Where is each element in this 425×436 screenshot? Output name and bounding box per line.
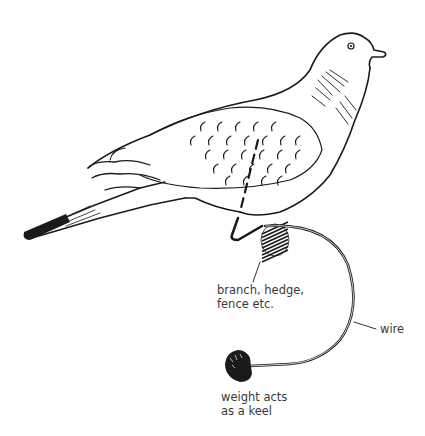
wing-scallop	[191, 136, 196, 145]
wing-scallop	[268, 164, 273, 173]
wing-scallop	[254, 122, 259, 131]
wing-scallop	[281, 136, 286, 145]
wing-scallop	[278, 176, 283, 185]
branch-label-line-2: fence etc.	[217, 297, 304, 311]
wing-scallop	[218, 122, 223, 131]
wing-scallop	[296, 136, 301, 145]
wing-scallop	[245, 136, 250, 145]
wing-scallop	[278, 150, 283, 159]
wing-scallop	[236, 122, 241, 131]
tail-tip	[24, 214, 70, 240]
wing-scallop	[260, 150, 265, 159]
diagram-canvas: branch, hedge, fence etc. wire weight ac…	[0, 0, 425, 436]
wing-coverts	[140, 107, 322, 188]
weight-label-line-2: as a keel	[221, 404, 287, 418]
weight	[225, 350, 252, 382]
wire-label: wire	[380, 322, 404, 336]
wing-scallop	[296, 150, 301, 159]
keel-axis-line	[240, 140, 258, 212]
wing-primaries	[88, 148, 160, 190]
branch-label-line-1: branch, hedge,	[217, 283, 304, 297]
wing-scallop	[226, 176, 231, 185]
wing-scallop	[227, 136, 232, 145]
bird-illustration	[0, 0, 425, 436]
branch-label: branch, hedge, fence etc.	[217, 283, 304, 311]
branch-leader	[253, 262, 260, 282]
wing-scallop	[286, 164, 291, 173]
wing-scallop	[224, 150, 229, 159]
wing-scallop	[272, 122, 277, 131]
branch-hatched	[261, 222, 289, 262]
weight-label-line-1: weight acts	[221, 390, 287, 404]
wing-scallop	[209, 136, 214, 145]
wire-leader	[354, 322, 376, 329]
wing-scallop	[242, 150, 247, 159]
wing-scallop	[206, 150, 211, 159]
tail	[24, 182, 185, 240]
weight-label: weight acts as a keel	[221, 390, 287, 418]
wing-scallop	[232, 164, 237, 173]
wing-scallop	[262, 176, 267, 185]
wing-scallop	[263, 136, 268, 145]
wing-scallop	[201, 122, 206, 131]
wing-scallop	[214, 164, 219, 173]
